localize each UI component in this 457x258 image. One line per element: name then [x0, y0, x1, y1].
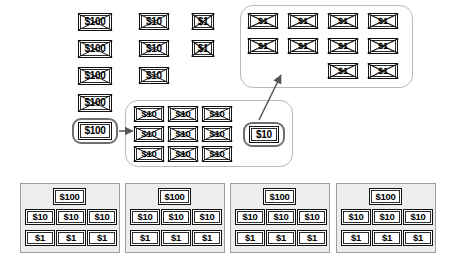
panel2-bill-ten: $10	[192, 209, 222, 225]
panel1-bill-ten: $10	[56, 209, 86, 225]
panel1-bill-one: $1	[87, 230, 117, 246]
bill-label: $10	[95, 212, 110, 222]
bill-ten-crossed: $10	[168, 146, 198, 162]
bill-label: $1	[298, 16, 308, 26]
bill-label: $10	[256, 129, 272, 139]
bill-hundred-crossed: $100	[78, 13, 112, 31]
panel2-bill-one: $1	[130, 230, 160, 246]
bill-hundred-crossed: $100	[78, 40, 112, 58]
panel4-bill-ten: $10	[403, 209, 433, 225]
bill-one-crossed: $1	[368, 63, 398, 79]
panel3-bill-hundred: $100	[263, 188, 296, 205]
bill-label: $10	[243, 212, 258, 222]
bill-label: $1	[338, 66, 348, 76]
panel4-bill-one: $1	[341, 230, 371, 246]
bill-label: $10	[176, 149, 191, 159]
bill-label: $10	[305, 212, 320, 222]
bill-label: $1	[378, 41, 388, 51]
bill-label: $10	[138, 212, 153, 222]
bill-label: $1	[298, 41, 308, 51]
panel2-bill-one: $1	[192, 230, 222, 246]
bill-hundred-crossed: $100	[78, 94, 112, 112]
bill-label: $1	[378, 16, 388, 26]
bill-one-crossed: $1	[288, 38, 318, 54]
bill-label: $10	[176, 129, 191, 139]
bill-ten-crossed: $10	[202, 126, 232, 142]
bill-label: $10	[210, 129, 225, 139]
bill-one-crossed: $1	[328, 38, 358, 54]
bill-label: $10	[146, 43, 162, 53]
panel1-bill-hundred: $100	[53, 188, 86, 205]
bill-label: $10	[380, 212, 395, 222]
panel1-bill-ten: $10	[25, 209, 55, 225]
bill-ten-crossed: $10	[134, 126, 164, 142]
bill-one-crossed: $1	[192, 40, 214, 57]
bill-ten-crossed: $10	[134, 106, 164, 122]
bill-one-crossed: $1	[248, 13, 278, 29]
bill-label: $1	[202, 233, 212, 243]
bill-label: $10	[349, 212, 364, 222]
panel4-bill-one: $1	[403, 230, 433, 246]
bill-label: $1	[351, 233, 361, 243]
bill-label: $100	[165, 191, 185, 201]
bill-label: $100	[84, 98, 105, 108]
bill-one-crossed: $1	[368, 38, 398, 54]
bill-ten-crossed: $10	[168, 126, 198, 142]
bill-label: $1	[140, 233, 150, 243]
bill-label: $10	[142, 109, 157, 119]
bill-label: $1	[338, 16, 348, 26]
bill-one-crossed: $1	[248, 38, 278, 54]
bill-label: $1	[245, 233, 255, 243]
bill-label: $100	[270, 191, 290, 201]
bill-label: $1	[258, 16, 268, 26]
bill-label: $10	[64, 212, 79, 222]
bill-label: $1	[198, 43, 209, 53]
bill-hundred-crossed: $100	[78, 67, 112, 85]
bill-label: $100	[84, 71, 105, 81]
panel1-bill-one: $1	[25, 230, 55, 246]
bill-label: $1	[171, 233, 181, 243]
panel3-bill-ten: $10	[297, 209, 327, 225]
bill-ten-highlighted: $10	[249, 126, 279, 143]
bill-label: $1	[378, 66, 388, 76]
bill-label: $1	[198, 16, 209, 26]
panel2-bill-hundred: $100	[158, 188, 191, 205]
bill-one-crossed: $1	[288, 13, 318, 29]
panel3-bill-one: $1	[297, 230, 327, 246]
bill-label: $10	[142, 149, 157, 159]
panel3-bill-one: $1	[235, 230, 265, 246]
bill-label: $1	[307, 233, 317, 243]
bill-label: $1	[276, 233, 286, 243]
panel4-bill-ten: $10	[341, 209, 371, 225]
bill-label: $100	[84, 126, 105, 136]
bill-label: $10	[146, 16, 162, 26]
diagram-canvas: $1 $1 $1 $1 $1 $1 $1 $1 $1 $1 $100	[0, 0, 457, 258]
panel3-bill-one: $1	[266, 230, 296, 246]
panel2-bill-ten: $10	[130, 209, 160, 225]
bill-label: $1	[258, 41, 268, 51]
bill-label: $10	[411, 212, 426, 222]
bill-label: $10	[210, 149, 225, 159]
bill-label: $10	[142, 129, 157, 139]
panel2-bill-ten: $10	[161, 209, 191, 225]
bill-label: $1	[97, 233, 107, 243]
bill-ten-crossed: $10	[202, 146, 232, 162]
bill-one-crossed: $1	[192, 13, 214, 30]
panel4-bill-hundred: $100	[369, 188, 402, 205]
bill-hundred-highlighted: $100	[78, 122, 112, 140]
panel2-bill-one: $1	[161, 230, 191, 246]
panel4-bill-one: $1	[372, 230, 402, 246]
bill-one-crossed: $1	[328, 13, 358, 29]
panel3-bill-ten: $10	[235, 209, 265, 225]
bill-ten-crossed: $10	[139, 13, 169, 30]
bill-label: $1	[338, 41, 348, 51]
bill-one-crossed: $1	[368, 13, 398, 29]
bill-label: $10	[146, 70, 162, 80]
bill-label: $10	[176, 109, 191, 119]
bill-one-crossed: $1	[328, 63, 358, 79]
bill-label: $100	[60, 191, 80, 201]
bill-label: $10	[200, 212, 215, 222]
bill-label: $10	[274, 212, 289, 222]
bill-ten-crossed: $10	[168, 106, 198, 122]
bill-label: $1	[382, 233, 392, 243]
